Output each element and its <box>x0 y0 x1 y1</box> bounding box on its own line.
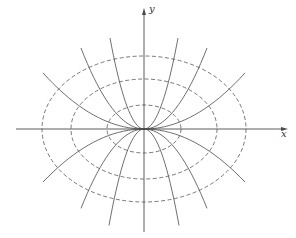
axes <box>16 8 288 232</box>
orthogonal-curves-diagram: y x <box>0 0 296 238</box>
y-axis-label: y <box>149 4 155 14</box>
y-axis-arrow-icon <box>142 8 146 15</box>
x-axis-label: x <box>281 129 287 139</box>
diagram-canvas <box>0 0 296 238</box>
